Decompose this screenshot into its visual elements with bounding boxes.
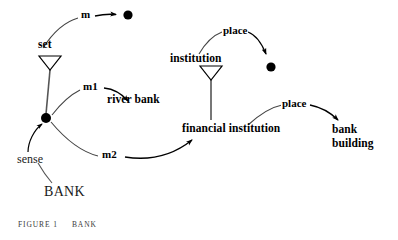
- edge-curve-m2-left: [51, 122, 98, 156]
- node-label-river-bank: river bank: [107, 93, 160, 106]
- edge-label-m1: m1: [82, 80, 99, 92]
- set-stem-line: [46, 70, 50, 114]
- node-label-institution: institution: [170, 52, 222, 65]
- edge-curve-m-right: [95, 14, 116, 16]
- institution-triangle-icon: [200, 66, 222, 80]
- figure-caption-label: FIGURE 1: [18, 220, 58, 229]
- node-label-financial-institution: financial institution: [182, 122, 280, 135]
- edge-curve-m1-left: [52, 90, 80, 115]
- node-dot-m-target: [123, 10, 132, 19]
- edge-label-m: m: [80, 8, 91, 20]
- figure-bank-diagram: set river bank institution financial ins…: [0, 0, 398, 240]
- node-dot-bank-junction: [41, 113, 51, 123]
- node-label-set: set: [38, 38, 52, 51]
- edge-curve-place-building-right: [310, 105, 338, 120]
- edge-label-sense: sense: [17, 152, 43, 167]
- edge-label-m2: m2: [101, 148, 118, 160]
- edge-curve-place-institution-right: [248, 32, 266, 54]
- edge-curve-m2-right: [125, 140, 192, 158]
- node-label-bank-root: BANK: [44, 184, 85, 200]
- node-dot-place-target: [266, 62, 275, 71]
- figure-caption-title: BANK: [72, 220, 97, 229]
- edge-curve-sense-upper: [28, 124, 42, 152]
- diagram-canvas: [0, 0, 398, 240]
- edge-label-place-institution: place: [222, 24, 248, 36]
- figure-caption: FIGURE 1BANK: [18, 220, 97, 229]
- set-triangle-icon: [39, 56, 61, 70]
- edge-label-place-building: place: [281, 97, 307, 109]
- node-label-bank-building: bank building: [332, 122, 386, 150]
- edge-curve-place-institution-left: [199, 32, 222, 54]
